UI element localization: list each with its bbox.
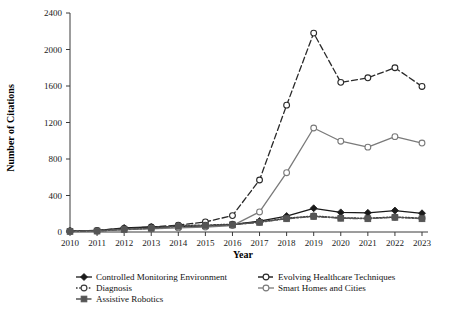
legend-item[interactable]: Evolving Healthcare Techniques: [258, 272, 396, 282]
data-point-marker: [365, 75, 371, 81]
x-axis-tick-label: 2023: [413, 238, 432, 248]
data-point-marker: [338, 138, 344, 144]
data-point-marker: [257, 220, 263, 226]
data-point-marker: [338, 215, 344, 221]
y-axis-tick-label: 800: [49, 154, 63, 164]
series-line: [70, 33, 422, 231]
x-axis-tick-label: 2018: [278, 238, 297, 248]
x-axis-tick-label: 2017: [251, 238, 270, 248]
x-axis-tick-label: 2014: [169, 238, 188, 248]
x-axis-tick-label: 2022: [386, 238, 404, 248]
data-point-marker: [263, 274, 269, 280]
y-axis-tick-label: 400: [49, 191, 63, 201]
y-axis-tick-label: 0: [58, 227, 63, 237]
data-point-marker: [419, 216, 425, 222]
x-axis-tick-label: 2021: [359, 238, 377, 248]
data-point-marker: [94, 228, 100, 234]
x-axis-tick-label: 2019: [305, 238, 324, 248]
x-axis-tick-label: 2015: [196, 238, 215, 248]
x-axis-tick-labels: 2010201120122013201420152016201720182019…: [61, 238, 432, 248]
data-point-marker: [284, 216, 290, 222]
legend-label: Diagnosis: [96, 283, 132, 293]
x-axis-tick-label: 2020: [332, 238, 351, 248]
legend-label: Assistive Robotics: [96, 294, 164, 304]
data-point-marker: [338, 79, 344, 85]
data-point-marker: [365, 216, 371, 222]
x-axis-tick-label: 2013: [142, 238, 161, 248]
data-point-marker: [81, 274, 88, 281]
citations-line-chart-figure: 04008001200160020002400 2010201120122013…: [0, 0, 449, 310]
data-point-marker: [311, 125, 317, 131]
data-point-marker: [202, 223, 208, 229]
data-point-marker: [311, 30, 317, 36]
x-axis-title: Year: [233, 249, 254, 260]
chart-series-group: [67, 30, 426, 234]
legend-label: Controlled Monitoring Environment: [96, 272, 227, 282]
y-axis-tick-label: 2000: [44, 45, 63, 55]
data-point-marker: [81, 285, 87, 291]
data-point-marker: [230, 213, 236, 219]
data-point-marker: [175, 223, 181, 229]
y-axis-tick-label: 1200: [44, 118, 63, 128]
y-axis-tick-label: 2400: [44, 8, 63, 18]
chart-canvas: 04008001200160020002400 2010201120122013…: [0, 0, 449, 310]
legend-label: Evolving Healthcare Techniques: [278, 272, 396, 282]
chart-series: [67, 214, 425, 235]
chart-series: [67, 30, 425, 234]
data-point-marker: [257, 177, 263, 183]
data-point-marker: [230, 222, 236, 228]
x-axis-tick-label: 2011: [88, 238, 106, 248]
data-point-marker: [419, 84, 425, 90]
legend-item[interactable]: Assistive Robotics: [76, 294, 164, 304]
legend-item[interactable]: Diagnosis: [76, 283, 132, 293]
legend-label: Smart Homes and Cities: [278, 283, 366, 293]
data-point-marker: [263, 285, 269, 291]
y-axis-tick-label: 1600: [44, 81, 63, 91]
data-point-marker: [392, 215, 398, 221]
x-axis-tick-label: 2010: [61, 238, 80, 248]
data-point-marker: [257, 209, 263, 215]
legend-item[interactable]: Smart Homes and Cities: [258, 283, 366, 293]
chart-axes: [66, 13, 428, 236]
data-point-marker: [391, 207, 398, 214]
data-point-marker: [365, 144, 371, 150]
chart-legend: Controlled Monitoring EnvironmentDiagnos…: [76, 272, 396, 304]
data-point-marker: [310, 205, 317, 212]
data-point-marker: [419, 140, 425, 146]
x-axis-tick-label: 2016: [223, 238, 242, 248]
data-point-marker: [67, 229, 73, 235]
legend-item[interactable]: Controlled Monitoring Environment: [76, 272, 227, 282]
data-point-marker: [392, 65, 398, 71]
data-point-marker: [392, 134, 398, 140]
data-point-marker: [311, 214, 317, 220]
data-point-marker: [81, 296, 87, 302]
data-point-marker: [284, 102, 290, 108]
data-point-marker: [284, 170, 290, 176]
y-axis-title: Number of Citations: [5, 84, 16, 172]
y-axis-tick-labels: 04008001200160020002400: [44, 8, 63, 237]
x-axis-tick-label: 2012: [115, 238, 133, 248]
data-point-marker: [148, 225, 154, 231]
data-point-marker: [121, 227, 127, 233]
